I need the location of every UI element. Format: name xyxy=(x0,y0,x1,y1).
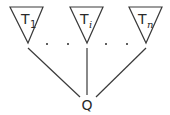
ellipsis-dot xyxy=(126,43,128,45)
edge-tn-q xyxy=(96,48,146,97)
label-tn-sub: n xyxy=(147,19,153,30)
tree-diagram: T 1 T i T n Q xyxy=(0,0,170,115)
edge-t1-q xyxy=(28,48,80,97)
label-tn-base: T xyxy=(137,11,147,27)
ellipsis-dot xyxy=(67,43,69,45)
subtree-tn: T n xyxy=(129,7,162,43)
label-ti-base: T xyxy=(79,11,89,27)
label-t1-base: T xyxy=(20,11,30,27)
ellipsis-dot xyxy=(105,43,107,45)
ellipsis-dot xyxy=(46,43,48,45)
label-t1-sub: 1 xyxy=(30,19,36,30)
subtree-ti: T i xyxy=(70,7,103,43)
root-label: Q xyxy=(81,97,92,113)
label-ti-sub: i xyxy=(89,19,92,30)
subtree-t1: T 1 xyxy=(10,7,43,43)
